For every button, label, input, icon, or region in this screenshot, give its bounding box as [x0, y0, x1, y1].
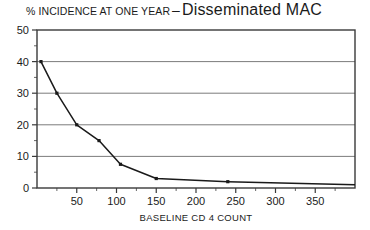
data-series-line [41, 62, 355, 185]
chart-figure: % INCIDENCE AT ONE YEAR – Disseminated M… [0, 0, 370, 230]
data-series-markers [39, 60, 229, 183]
minor-tick-marks [34, 46, 335, 191]
svg-text:30: 30 [17, 87, 29, 99]
gridlines [37, 62, 355, 157]
y-axis-tick-labels: 01020304050 [17, 24, 29, 194]
svg-text:50: 50 [17, 24, 29, 36]
svg-text:250: 250 [227, 195, 245, 207]
x-axis-title: BASELINE CD 4 COUNT [140, 212, 253, 223]
svg-text:10: 10 [17, 150, 29, 162]
major-tick-marks [32, 30, 315, 193]
plot-area: 01020304050 50100150200250300350 BASELIN… [0, 0, 370, 230]
svg-text:350: 350 [306, 195, 324, 207]
svg-text:40: 40 [17, 56, 29, 68]
svg-text:0: 0 [23, 182, 29, 194]
svg-text:300: 300 [266, 195, 284, 207]
x-axis-tick-labels: 50100150200250300350 [71, 195, 325, 207]
svg-text:20: 20 [17, 119, 29, 131]
plot-frame [37, 30, 355, 188]
svg-text:50: 50 [71, 195, 83, 207]
svg-text:100: 100 [107, 195, 125, 207]
svg-text:200: 200 [187, 195, 205, 207]
svg-text:150: 150 [147, 195, 165, 207]
